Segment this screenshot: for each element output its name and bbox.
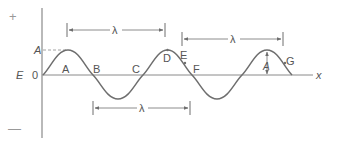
point-label-d: D (163, 52, 171, 64)
x-axis-label: x (315, 69, 322, 81)
minus-sign: — (8, 121, 21, 136)
point-label-f: F (193, 63, 200, 75)
point-d-dot (166, 49, 168, 51)
wavelength-marker-top: λ (67, 23, 165, 37)
amplitude-axis-label: A (33, 44, 41, 56)
wavelength-label-right: λ (230, 33, 236, 45)
point-label-c: C (132, 63, 140, 75)
amplitude-arrow-label: A (262, 61, 270, 72)
origin-label: 0 (32, 69, 38, 81)
wave-diagram: + — E 0 x A A A B C D E F G λ (0, 0, 338, 144)
point-label-g: G (286, 55, 295, 67)
wavelength-label-bottom: λ (139, 102, 145, 114)
wavelength-marker-bottom: λ (93, 101, 190, 115)
point-label-a: A (62, 63, 70, 75)
point-label-e: E (180, 49, 187, 61)
point-e-dot (184, 62, 186, 64)
wavelength-label-top: λ (112, 24, 118, 36)
wavelength-marker-right: λ (182, 32, 283, 46)
y-axis-label: E (16, 69, 24, 81)
point-label-b: B (93, 63, 100, 75)
plus-sign: + (9, 9, 17, 24)
